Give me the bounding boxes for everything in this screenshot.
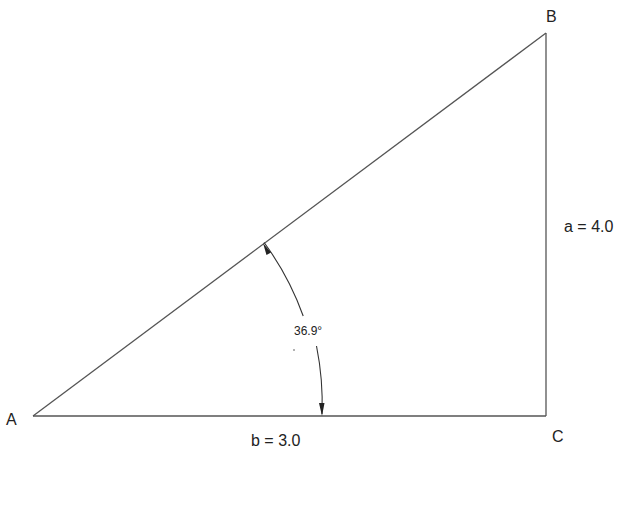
speck: [293, 349, 295, 351]
vertex-label-b: B: [546, 8, 557, 25]
arrowhead-lower-icon: [319, 403, 325, 416]
angle-arc-upper: [264, 243, 303, 317]
side-c-hypotenuse: [33, 33, 546, 416]
side-label-b: b = 3.0: [251, 432, 300, 449]
vertex-label-a: A: [6, 411, 17, 428]
triangle-diagram: A B C a = 4.0 b = 3.0 36.9°: [0, 0, 627, 506]
vertex-label-c: C: [552, 428, 564, 445]
angle-label: 36.9°: [294, 324, 322, 338]
arrowhead-upper-icon: [263, 243, 271, 255]
side-label-a: a = 4.0: [564, 218, 613, 235]
